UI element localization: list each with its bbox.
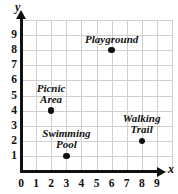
gridline-horizontal xyxy=(21,50,173,51)
y-tick-label-6: 6 xyxy=(4,74,17,86)
coordinate-plane-figure: y x 0123456789 123456789 PlaygroundPicni… xyxy=(0,0,178,194)
point-label-line: Pool xyxy=(42,139,90,151)
point-label-walking-trail: WalkingTrail xyxy=(123,113,161,136)
gridline-horizontal xyxy=(21,20,173,21)
x-tick-label-4: 4 xyxy=(74,178,88,190)
x-tick-label-9: 9 xyxy=(150,178,164,190)
gridline-horizontal xyxy=(21,65,173,66)
x-tick-label-6: 6 xyxy=(105,178,119,190)
y-tick-label-3: 3 xyxy=(4,120,17,132)
point-label-line: Trail xyxy=(123,124,161,136)
x-axis-label: x xyxy=(168,163,174,175)
point-label-line: Playground xyxy=(85,34,138,46)
x-tick-label-5: 5 xyxy=(90,178,104,190)
x-tick-label-2: 2 xyxy=(44,178,58,190)
point-label-swimming-pool: SwimmingPool xyxy=(42,128,90,151)
x-tick-label-0: 0 xyxy=(14,178,28,190)
x-tick-label-8: 8 xyxy=(135,178,149,190)
y-tick-label-7: 7 xyxy=(4,59,17,71)
y-tick-label-9: 9 xyxy=(4,29,17,41)
y-tick-label-5: 5 xyxy=(4,90,17,102)
point-label-picnic-area: PicnicArea xyxy=(37,83,66,106)
x-axis-arrow-icon xyxy=(157,167,166,177)
gridline-horizontal xyxy=(21,156,173,157)
data-point-walking-trail[interactable] xyxy=(139,138,146,145)
point-label-playground: Playground xyxy=(85,34,138,46)
y-tick-label-1: 1 xyxy=(4,150,17,162)
y-axis-label: y xyxy=(15,1,20,13)
y-tick-label-2: 2 xyxy=(4,135,17,147)
point-label-line: Area xyxy=(37,94,66,106)
y-tick-label-4: 4 xyxy=(4,105,17,117)
y-tick-label-8: 8 xyxy=(4,44,17,56)
y-axis-line xyxy=(20,17,23,173)
x-tick-label-7: 7 xyxy=(120,178,134,190)
x-axis-line xyxy=(20,170,159,173)
x-tick-label-3: 3 xyxy=(59,178,73,190)
data-point-swimming-pool[interactable] xyxy=(63,153,70,160)
x-tick-label-1: 1 xyxy=(29,178,43,190)
